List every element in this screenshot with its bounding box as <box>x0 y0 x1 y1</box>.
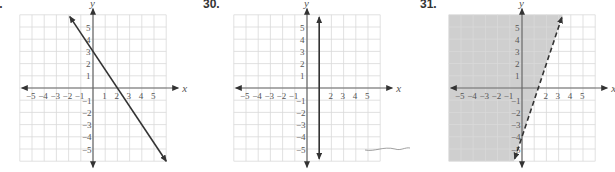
x-tick-label: 2 <box>543 91 548 101</box>
y-tick-label: −1 <box>82 96 92 106</box>
x-axis-label: x <box>395 82 401 94</box>
x-axis-label: x <box>610 82 615 94</box>
x-tick-label: 1 <box>102 91 107 101</box>
y-axis-label: y <box>89 0 95 9</box>
y-tick-label: −4 <box>82 132 92 142</box>
y-tick-label: 5 <box>86 23 91 33</box>
y-axis-label: y <box>518 0 524 9</box>
x-tick-label: 2 <box>114 91 119 101</box>
y-tick-label: −2 <box>511 108 521 118</box>
x-tick-label: 5 <box>580 91 585 101</box>
x-tick-label: −2 <box>277 91 287 101</box>
y-tick-label: 1 <box>515 71 520 81</box>
y-tick-label: 2 <box>86 59 91 69</box>
y-tick-label: 3 <box>515 47 520 57</box>
x-tick-label: 5 <box>365 91 370 101</box>
coordinate-plane: xy−5−4−3−2−1234554321−1−2−3−4−5 <box>205 0 410 172</box>
y-tick-label: 2 <box>515 59 520 69</box>
x-tick-label: 3 <box>556 91 561 101</box>
x-tick-label: −4 <box>467 91 477 101</box>
y-tick-label: −1 <box>296 96 306 106</box>
y-tick-label: −1 <box>511 96 521 106</box>
y-tick-label: −2 <box>296 108 306 118</box>
x-tick-label: −4 <box>38 91 48 101</box>
x-tick-label: −2 <box>492 91 502 101</box>
x-tick-label: 3 <box>127 91 132 101</box>
y-axis-label: y <box>303 0 309 9</box>
y-tick-label: 5 <box>515 23 520 33</box>
y-tick-label: −3 <box>511 120 521 130</box>
x-tick-label: 4 <box>568 91 573 101</box>
y-tick-label: −3 <box>296 120 306 130</box>
y-tick-label: −4 <box>511 132 521 142</box>
x-tick-label: −5 <box>455 91 465 101</box>
coordinate-plane: xy−5−4−3−2−1234554321−1−2−3−4−5 <box>410 0 615 172</box>
y-tick-label: 3 <box>300 47 305 57</box>
x-tick-label: 4 <box>353 91 358 101</box>
y-tick-label: 4 <box>515 35 520 45</box>
y-tick-label: 2 <box>300 59 305 69</box>
coordinate-plane: xy−5−4−3−2−11234554321−1−2−3−4−5 <box>0 0 205 172</box>
x-tick-label: −2 <box>63 91 73 101</box>
x-tick-label: −5 <box>26 91 36 101</box>
x-tick-label: 4 <box>139 91 144 101</box>
x-axis-label: x <box>181 82 187 94</box>
y-tick-label: −2 <box>82 108 92 118</box>
y-tick-label: −5 <box>511 145 521 155</box>
graph-panel-31: 31. xy−5−4−3−2−1234554321−1−2−3−4−5 <box>410 0 615 172</box>
y-tick-label: 5 <box>300 23 305 33</box>
y-tick-label: 1 <box>300 71 305 81</box>
graph-panel-30: 30. xy−5−4−3−2−1234554321−1−2−3−4−5 <box>205 0 410 172</box>
x-tick-label: −4 <box>252 91 262 101</box>
x-tick-label: −3 <box>50 91 60 101</box>
x-tick-label: 3 <box>341 91 346 101</box>
x-tick-label: −3 <box>479 91 489 101</box>
x-tick-label: 2 <box>328 91 333 101</box>
y-tick-label: 1 <box>86 71 91 81</box>
x-tick-label: 5 <box>151 91 156 101</box>
x-tick-label: −5 <box>240 91 250 101</box>
y-tick-label: −3 <box>82 120 92 130</box>
graph-panel-29: 29. xy−5−4−3−2−11234554321−1−2−3−4−5 <box>0 0 205 172</box>
y-tick-label: −5 <box>82 145 92 155</box>
y-tick-label: −4 <box>296 132 306 142</box>
y-tick-label: −5 <box>296 145 306 155</box>
y-tick-label: 4 <box>300 35 305 45</box>
x-tick-label: −3 <box>264 91 274 101</box>
